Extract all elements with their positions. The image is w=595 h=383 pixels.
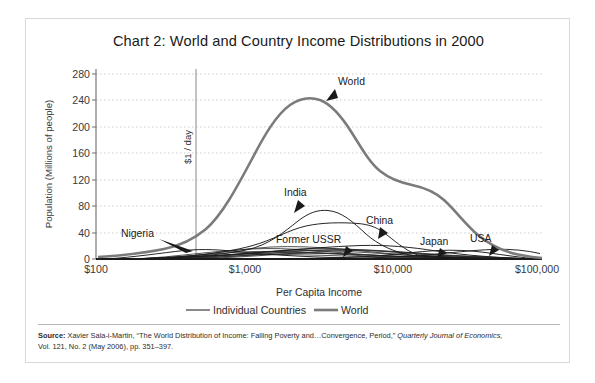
source-volume: Vol. 121, No. 2 (May 2006), pp. 351–397. xyxy=(38,342,173,351)
chart-page: Chart 2: World and Country Income Distri… xyxy=(0,0,595,383)
y-axis-label: Population (Millions of people) xyxy=(43,100,54,229)
x-tick-label: $10,000 xyxy=(374,263,412,275)
x-axis-label: Per Capita Income xyxy=(276,287,362,298)
chart-svg: 0 40 80 120 160 200 240 280 Population (… xyxy=(26,19,571,364)
y-tick-label: 200 xyxy=(72,121,90,133)
annotation-india-label: India xyxy=(284,187,307,198)
y-ticks xyxy=(92,74,96,259)
source-note: Source: Xavier Sala-i-Martin, “The World… xyxy=(38,331,560,352)
annotation-china-arrow xyxy=(378,227,388,239)
annotation-usa-label: USA xyxy=(470,233,491,244)
x-tick-label: $1,000 xyxy=(229,263,262,275)
source-journal: Quarterly Journal of Economics, xyxy=(397,331,502,340)
y-tick-labels: 0 40 80 120 160 200 240 280 xyxy=(72,68,90,265)
source-citation-text: Xavier Sala-i-Martin, “The World Distrib… xyxy=(66,331,398,340)
y-tick-label: 80 xyxy=(78,200,90,212)
y-tick-label: 40 xyxy=(78,227,90,239)
annotation-india-arrow xyxy=(294,200,305,213)
x-tick-label: $100,000 xyxy=(515,263,559,275)
chart-legend: Individual Countries World xyxy=(186,304,369,316)
legend-label-individual-countries: Individual Countries xyxy=(213,304,306,316)
y-tick-label: 120 xyxy=(72,174,90,186)
annotation-former-ussr-label: Former USSR xyxy=(276,234,342,245)
annotation-world-arrow xyxy=(326,89,338,101)
x-tick-label: $100 xyxy=(84,263,108,275)
chart-plot-area: 0 40 80 120 160 200 240 280 Population (… xyxy=(26,19,571,364)
annotation-china-label: China xyxy=(366,215,393,226)
annotation-nigeria-label: Nigeria xyxy=(121,228,154,239)
gridlines xyxy=(96,74,542,233)
annotation-world-label: World xyxy=(338,76,365,87)
dollar-a-day-label: $1 / day xyxy=(182,130,193,164)
y-tick-label: 240 xyxy=(72,94,90,106)
y-tick-label: 160 xyxy=(72,147,90,159)
source-divider xyxy=(38,324,560,325)
source-prefix: Source: xyxy=(38,331,66,340)
legend-label-world: World xyxy=(341,304,369,316)
chart-card: Chart 2: World and Country Income Distri… xyxy=(25,18,570,363)
annotation-japan-label: Japan xyxy=(420,236,449,247)
y-tick-label: 280 xyxy=(72,68,90,80)
x-tick-labels: $100 $1,000 $10,000 $100,000 xyxy=(84,263,559,275)
